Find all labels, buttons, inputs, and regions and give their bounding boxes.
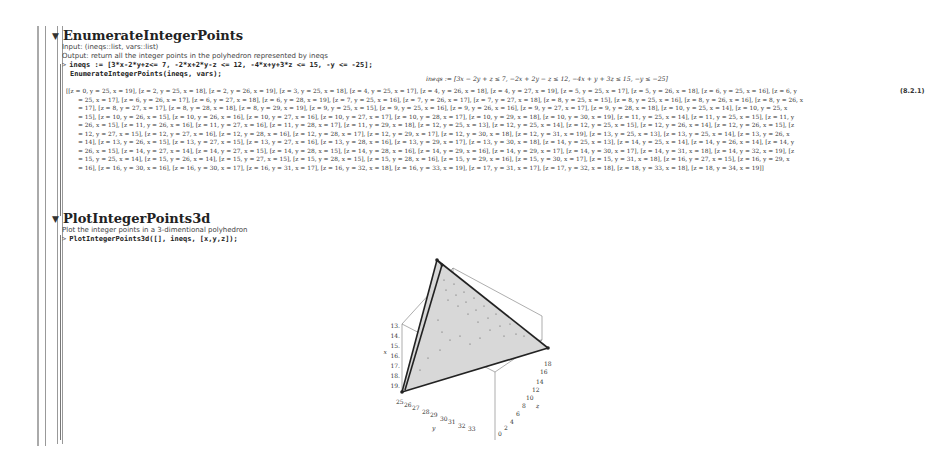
input-command[interactable]: >ineqs := [3*x-2*y+z<= 7, -2*x+2*y-z <= …: [62, 61, 373, 70]
prompt-icon: >: [62, 61, 66, 69]
gutter-line: [37, 26, 39, 446]
svg-text:14.: 14.: [390, 332, 400, 339]
svg-text:0: 0: [498, 430, 502, 437]
svg-text:19.: 19.: [390, 382, 400, 389]
gutter-line: [45, 26, 46, 446]
svg-text:16: 16: [540, 368, 548, 375]
svg-text:18: 18: [544, 360, 552, 367]
svg-text:27: 27: [412, 404, 420, 411]
output-line: = 16], [z = 16, y = 30, x = 16], [z = 16…: [66, 164, 856, 173]
input-command[interactable]: EnumerateIntegerPoints(ineqs, vars);: [70, 70, 373, 79]
output-line: = 17], [z = 8, y = 27, x = 17], [z = 8, …: [66, 104, 856, 113]
collapse-triangle-icon[interactable]: ▼: [52, 214, 59, 224]
section-title: PlotIntegerPoints3d: [63, 211, 210, 226]
section-plot-integer-points-3d: ▼ PlotIntegerPoints3d Plot the integer p…: [52, 211, 248, 244]
svg-text:26: 26: [404, 401, 412, 408]
description-line: Plot the integer points in a 3-dimention…: [62, 226, 248, 235]
command-text[interactable]: ineqs := [3*x-2*y+z<= 7, -2*x+2*y-z <= 1…: [69, 61, 372, 69]
plot-3d[interactable]: 13. 14. 15. 16. 17. 18. 19. x 25 26 27 2…: [380, 240, 610, 440]
section-header[interactable]: ▼ PlotIntegerPoints3d: [52, 211, 248, 226]
result-output: [[z = 0, y = 25, x = 19], [z = 2, y = 25…: [66, 87, 856, 172]
svg-text:y: y: [431, 424, 436, 432]
svg-text:31: 31: [448, 418, 456, 425]
svg-text:17.: 17.: [390, 362, 400, 369]
input-command[interactable]: >PlotIntegerPoints3d([], ineqs, [x,y,z])…: [62, 235, 248, 244]
output-line: = 25, x = 17], [z = 6, y = 26, x = 17], …: [66, 96, 856, 105]
x-axis: 13. 14. 15. 16. 17. 18. 19. x: [384, 322, 400, 389]
output-line: = 14], [z = 13, y = 26, x = 15], [z = 13…: [66, 138, 856, 147]
output-line: = 15, y = 25, x = 14], [z = 15, y = 26, …: [66, 155, 856, 164]
description-line: Output: return all the integer points in…: [62, 52, 373, 61]
svg-text:14: 14: [536, 378, 544, 385]
svg-text:16.: 16.: [390, 352, 400, 359]
output-line: = 26, x = 15], [z = 14, y = 27, x = 14],…: [66, 147, 856, 156]
collapse-triangle-icon[interactable]: ▼: [52, 31, 59, 41]
description-line: Input: (ineqs::list, vars::list): [62, 43, 373, 52]
execution-group-bracket: [60, 235, 61, 440]
output-line: [[z = 0, y = 25, x = 19], [z = 2, y = 25…: [66, 87, 856, 96]
svg-text:29: 29: [430, 411, 438, 418]
svg-text:x: x: [384, 348, 388, 355]
svg-text:12: 12: [532, 386, 540, 393]
svg-text:25: 25: [396, 398, 404, 405]
svg-text:10: 10: [526, 394, 534, 401]
svg-text:32: 32: [458, 422, 466, 429]
z-axis: 0 2 4 6 8 10 12 14 16 18 z: [498, 360, 552, 437]
output-line: = 15], [z = 10, y = 26, x = 15], [z = 10…: [66, 113, 856, 122]
equation-label: (8.2.1): [900, 87, 924, 95]
svg-text:4: 4: [510, 418, 514, 425]
svg-text:13.: 13.: [390, 322, 400, 329]
y-axis: 25 26 27 28 29 30 31 32 33 y: [396, 398, 476, 432]
output-line: = 26, x = 15], [z = 11, y = 26, x = 16],…: [66, 121, 856, 130]
svg-text:18.: 18.: [390, 372, 400, 379]
ineqs-output: ineqs := [3x − 2y + z ≤ 7, −2x + 2y − z …: [426, 75, 668, 82]
section-title: EnumerateIntegerPoints: [63, 28, 243, 43]
svg-text:15.: 15.: [390, 342, 400, 349]
svg-text:6: 6: [516, 410, 520, 417]
section-enumerate-integer-points: ▼ EnumerateIntegerPoints Input: (ineqs::…: [52, 28, 373, 79]
execution-group-bracket: [60, 64, 61, 216]
svg-text:8: 8: [522, 402, 526, 409]
prompt-icon: >: [62, 235, 66, 243]
svg-text:2: 2: [504, 424, 508, 431]
command-text[interactable]: EnumerateIntegerPoints(ineqs, vars);: [70, 70, 222, 78]
command-text[interactable]: PlotIntegerPoints3d([], ineqs, [x,y,z]);: [69, 235, 238, 243]
section-header[interactable]: ▼ EnumerateIntegerPoints: [52, 28, 373, 43]
output-line: = 12, y = 27, x = 15], [z = 12, y = 27, …: [66, 130, 856, 139]
svg-text:33: 33: [468, 425, 476, 432]
svg-text:z: z: [535, 402, 540, 409]
svg-text:30: 30: [440, 415, 448, 422]
svg-text:28: 28: [422, 408, 430, 415]
